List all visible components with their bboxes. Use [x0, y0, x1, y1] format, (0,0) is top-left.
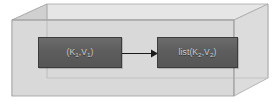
node-output-list-label: list(K2,V2) — [179, 48, 217, 57]
connector-arrow — [122, 46, 158, 59]
node-output-list[interactable]: list(K2,V2) — [157, 37, 238, 68]
diagram-canvas: (K1,V1) list(K2,V2) — [0, 0, 276, 106]
node-input-pair[interactable]: (K1,V1) — [38, 37, 122, 68]
arrow-svg — [122, 47, 158, 60]
node-input-pair-label: (K1,V1) — [67, 48, 94, 57]
diagram-content-layer: (K1,V1) list(K2,V2) — [0, 0, 276, 106]
